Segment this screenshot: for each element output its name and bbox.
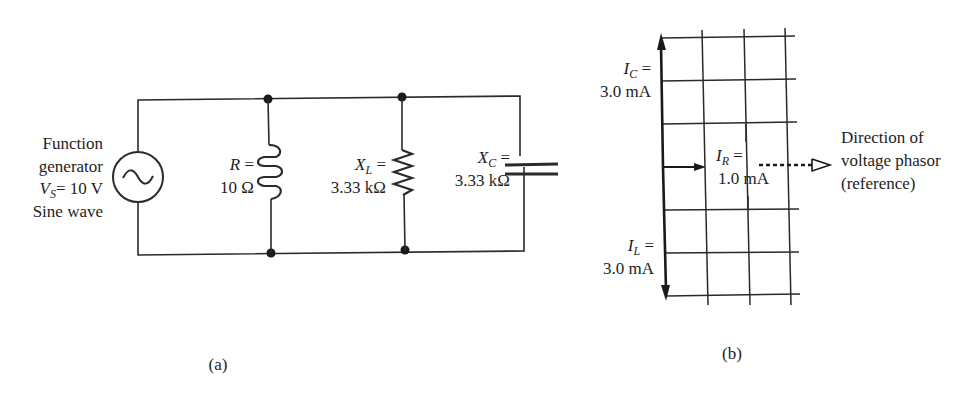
circuit-diagram: Function generator VS= 10 V Sine wave R … bbox=[33, 93, 558, 375]
svg-text:3.33 kΩ: 3.33 kΩ bbox=[331, 178, 386, 197]
xc-branch-label: XC = 3.33 kΩ bbox=[455, 148, 510, 190]
resistor-zigzag-icon bbox=[394, 97, 412, 250]
caption-b: (b) bbox=[722, 344, 742, 363]
capacitor-icon bbox=[505, 164, 558, 174]
svg-text:voltage phasor: voltage phasor bbox=[841, 151, 941, 170]
svg-text:IC =: IC = bbox=[622, 59, 651, 81]
svg-text:IR =: IR = bbox=[715, 146, 743, 168]
svg-text:3.0 mA: 3.0 mA bbox=[600, 82, 652, 101]
reference-label: Direction of voltage phasor (reference) bbox=[841, 128, 941, 193]
svg-text:3.0 mA: 3.0 mA bbox=[603, 259, 655, 278]
il-phasor-arrow bbox=[661, 167, 670, 301]
svg-text:1.0 mA: 1.0 mA bbox=[718, 169, 770, 188]
ir-phasor-arrow bbox=[663, 163, 706, 171]
top-wire bbox=[138, 96, 520, 156]
svg-text:R =: R = bbox=[229, 155, 254, 174]
ir-label: IR = 1.0 mA bbox=[715, 146, 770, 188]
svg-text:3.33 kΩ: 3.33 kΩ bbox=[455, 171, 510, 190]
source-line-2: generator bbox=[39, 157, 104, 176]
svg-text:IL =: IL = bbox=[627, 236, 654, 258]
il-label: IL = 3.0 mA bbox=[603, 236, 655, 278]
r-branch-label: R = 10 Ω bbox=[220, 155, 254, 197]
source-line-4: Sine wave bbox=[33, 202, 103, 221]
svg-text:XC =: XC = bbox=[477, 148, 510, 170]
source-voltage: VS= 10 V bbox=[40, 179, 104, 201]
phasor-diagram: IC = 3.0 mA IR = 1.0 mA IL = 3.0 mA Dire… bbox=[600, 28, 941, 363]
ic-label: IC = 3.0 mA bbox=[600, 59, 652, 101]
source-line-1: Function bbox=[43, 134, 104, 153]
voltage-reference-arrow bbox=[759, 159, 830, 171]
caption-a: (a) bbox=[209, 355, 228, 374]
svg-text:10 Ω: 10 Ω bbox=[220, 178, 254, 197]
inductor-coil-icon bbox=[258, 99, 282, 253]
figure-canvas: Function generator VS= 10 V Sine wave R … bbox=[0, 0, 979, 396]
svg-text:Direction of: Direction of bbox=[841, 128, 924, 147]
ac-source-icon bbox=[113, 152, 163, 202]
svg-text:(reference): (reference) bbox=[841, 174, 916, 193]
source-label: Function generator VS= 10 V Sine wave bbox=[33, 134, 104, 221]
xl-branch-label: XL = 3.33 kΩ bbox=[331, 155, 386, 197]
svg-text:XL =: XL = bbox=[354, 155, 386, 177]
ic-phasor-arrow bbox=[657, 33, 666, 167]
